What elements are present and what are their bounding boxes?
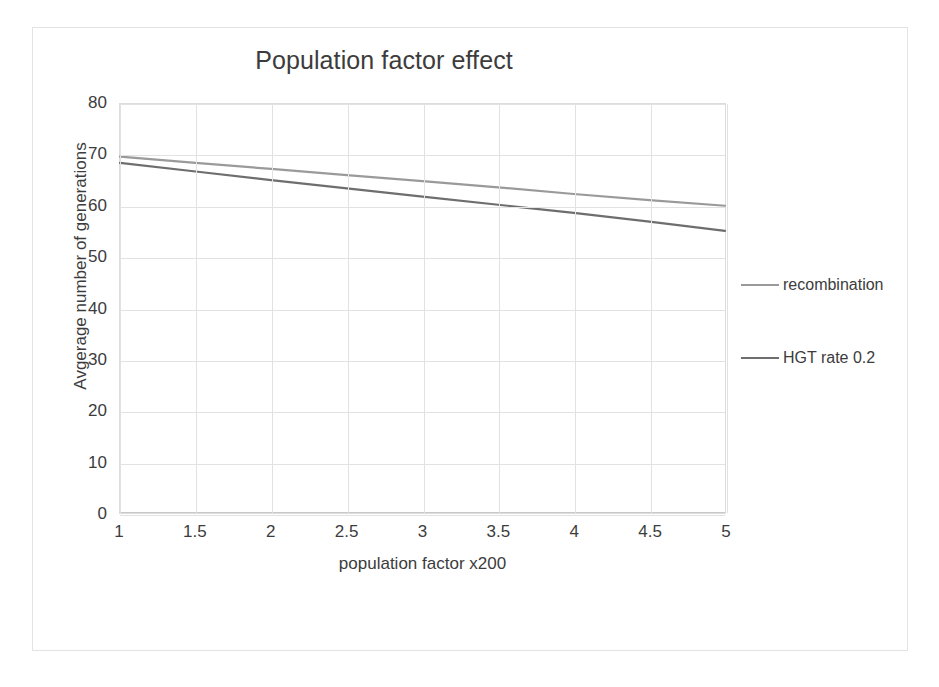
- gridline-vertical: [196, 104, 197, 513]
- x-tick-label: 3.5: [468, 522, 528, 542]
- x-tick-label: 1.5: [165, 522, 225, 542]
- gridline-vertical: [120, 104, 121, 513]
- series-lines: [120, 104, 725, 513]
- gridline-horizontal: [120, 207, 725, 208]
- chart-title-text: Population factor effect: [255, 46, 513, 75]
- gridline-horizontal: [120, 258, 725, 259]
- x-tick-label: 4.5: [620, 522, 680, 542]
- gridline-horizontal: [120, 361, 725, 362]
- x-axis-title: population factor x200: [119, 554, 726, 574]
- gridline-vertical: [575, 104, 576, 513]
- gridline-vertical: [727, 104, 728, 513]
- gridline-horizontal: [120, 515, 725, 516]
- series-line-1: [120, 163, 725, 231]
- legend-entry[interactable]: HGT rate 0.2: [741, 349, 875, 367]
- chart-title: Population factor effect: [33, 46, 907, 75]
- gridline-vertical: [424, 104, 425, 513]
- y-tick-label: 80: [63, 93, 107, 113]
- legend-label: HGT rate 0.2: [783, 349, 875, 367]
- y-axis-title: Avgerage number of generations: [71, 136, 91, 396]
- gridline-horizontal: [120, 412, 725, 413]
- gridline-horizontal: [120, 310, 725, 311]
- x-tick-label: 2: [241, 522, 301, 542]
- chart-container: Population factor effect 807060504030201…: [32, 27, 908, 651]
- gridline-horizontal: [120, 155, 725, 156]
- x-axis-tick-labels: 11.522.533.544.55: [119, 522, 726, 546]
- x-tick-label: 4: [544, 522, 604, 542]
- gridline-vertical: [272, 104, 273, 513]
- legend-entry[interactable]: recombination: [741, 276, 884, 294]
- series-line-0: [120, 157, 725, 206]
- y-tick-label: 20: [63, 401, 107, 421]
- x-tick-label: 5: [696, 522, 756, 542]
- y-tick-label: 10: [63, 453, 107, 473]
- gridline-horizontal: [120, 464, 725, 465]
- legend-line-swatch: [741, 357, 779, 359]
- x-tick-label: 3: [393, 522, 453, 542]
- legend-label: recombination: [783, 276, 884, 294]
- x-tick-label: 1: [89, 522, 149, 542]
- gridline-vertical: [348, 104, 349, 513]
- legend-line-swatch: [741, 284, 779, 286]
- gridline-vertical: [499, 104, 500, 513]
- plot-area: [119, 103, 726, 514]
- x-tick-label: 2.5: [317, 522, 377, 542]
- y-tick-label: 0: [63, 504, 107, 524]
- gridline-vertical: [651, 104, 652, 513]
- gridline-horizontal: [120, 104, 725, 105]
